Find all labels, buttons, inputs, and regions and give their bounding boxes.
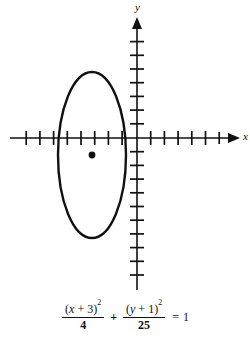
equation-right-hand-side: 1	[183, 310, 189, 325]
arrow-right-icon	[228, 133, 240, 143]
center-point-marker	[89, 152, 96, 159]
arrow-up-icon	[132, 17, 142, 29]
term-1-exponent: 2	[97, 298, 101, 307]
equation-caption: (x + 3)2 4 + (y + 1)2 25 = 1	[0, 296, 250, 338]
figure-root: y x (x + 3)2 4 + (y + 1)2 25 = 1	[0, 0, 250, 338]
term-1-denominator: 4	[80, 318, 86, 332]
term-2-inner-operator: +	[138, 302, 145, 316]
term-1-constant: 3)	[87, 302, 97, 316]
equation-term-2: (y + 1)2 25	[123, 303, 165, 332]
term-1-variable: x	[69, 302, 74, 316]
ellipse-equation: (x + 3)2 4 + (y + 1)2 25 = 1	[61, 303, 189, 332]
y-axis-label: y	[135, 2, 140, 13]
equation-plus-operator: +	[110, 310, 117, 325]
term-2-numerator: (y + 1)2	[123, 303, 165, 318]
x-axis-label: x	[243, 131, 248, 142]
term-1-inner-operator: +	[77, 302, 84, 316]
term-2-constant: 1)	[148, 302, 158, 316]
term-1-numerator: (x + 3)2	[62, 303, 104, 318]
equation-equals-sign: =	[172, 310, 179, 325]
coordinate-plane-graph	[0, 0, 250, 290]
term-2-variable: y	[130, 302, 135, 316]
term-2-exponent: 2	[158, 298, 162, 307]
equation-term-1: (x + 3)2 4	[62, 303, 104, 332]
term-2-denominator: 25	[138, 318, 150, 332]
